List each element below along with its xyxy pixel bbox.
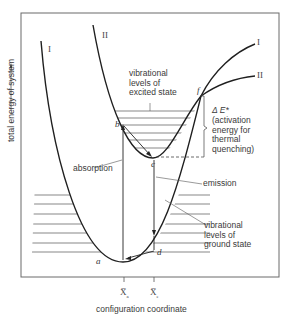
activation-energy-annotation: (activation energy for thermal quenching…: [212, 116, 254, 154]
configuration-coordinate-diagram: total energy of system I II I II f b c d…: [0, 0, 283, 318]
curve-I-label-right: I: [257, 38, 260, 48]
curve-I-label: I: [48, 45, 51, 55]
ground-levels-annotation: vibrational levels of ground state: [204, 221, 251, 250]
y-axis-label: total energy of system: [6, 59, 16, 142]
diagram-graphics: [0, 0, 283, 318]
x-axis-label: configuration coordinate: [96, 305, 187, 315]
point-d-label: d: [157, 247, 162, 257]
curve-II-label-right: II: [257, 71, 263, 81]
activation-bracket: [201, 96, 207, 157]
emission-arrowhead-icon: [152, 230, 156, 236]
relaxation-da-arrowhead-icon: [125, 256, 131, 260]
emission-annotation: emission: [203, 179, 237, 189]
x-tick-label-a: X̅a: [120, 287, 129, 299]
excited-levels-annotation: vibrational levels of excited state: [129, 69, 177, 98]
relaxation-arrow-da: [128, 251, 154, 258]
curve-II-label: II: [102, 31, 108, 41]
absorption-annotation: absorption: [73, 164, 113, 174]
point-a-label: a: [96, 256, 101, 266]
x-tick-label-e: X̅e: [150, 287, 159, 299]
point-b-label: b: [115, 119, 120, 129]
point-f-label: f: [197, 85, 200, 95]
point-c-label: c: [151, 159, 155, 169]
